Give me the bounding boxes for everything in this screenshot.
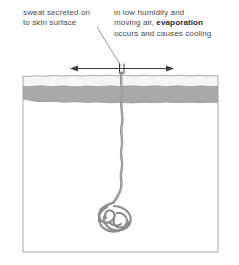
leader-line xyxy=(97,27,121,66)
skin-cross-section xyxy=(0,0,239,265)
skin-pore xyxy=(119,72,123,75)
diagram-canvas: sweat secreted on to skin surface in low… xyxy=(0,0,239,265)
